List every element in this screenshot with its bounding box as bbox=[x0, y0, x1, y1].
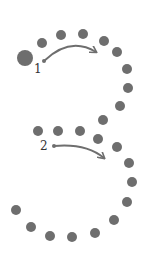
stroke-2-dot bbox=[26, 222, 36, 232]
digit-three-stroke-diagram: 12 bbox=[0, 0, 151, 253]
stroke-2-dot bbox=[124, 158, 134, 168]
stroke-1-dot bbox=[37, 38, 47, 48]
curved-arrow-icon bbox=[54, 146, 104, 159]
stroke-number-label: 2 bbox=[40, 139, 48, 153]
stroke-2-dot bbox=[93, 134, 103, 144]
stroke-2-dot bbox=[11, 205, 21, 215]
stroke-2-dot bbox=[33, 126, 43, 136]
curved-arrow-icon bbox=[44, 46, 96, 61]
stroke-2-dot bbox=[122, 197, 132, 207]
stroke-2-dot bbox=[45, 231, 55, 241]
stroke-1-dot bbox=[123, 83, 133, 93]
start-dot bbox=[17, 50, 33, 66]
stroke-2-dot bbox=[127, 177, 137, 187]
stroke-2-dot bbox=[112, 142, 122, 152]
dots-layer bbox=[11, 29, 137, 242]
arrow-origin-dot bbox=[42, 59, 46, 63]
stroke-1-dot bbox=[122, 64, 132, 74]
stroke-2-dot bbox=[109, 215, 119, 225]
stroke-1-dot bbox=[56, 30, 66, 40]
stroke-1-dot bbox=[112, 47, 122, 57]
stroke-number-label: 1 bbox=[34, 62, 42, 76]
stroke-1-dot bbox=[99, 36, 109, 46]
stroke-2-dot bbox=[90, 228, 100, 238]
stroke-2-dot bbox=[75, 126, 85, 136]
stroke-2-dot bbox=[67, 232, 77, 242]
stroke-1-arrow-group: 1 bbox=[34, 46, 96, 76]
stroke-2-dot bbox=[53, 126, 63, 136]
stroke-1-dot bbox=[98, 115, 108, 125]
stroke-1-dot bbox=[78, 29, 88, 39]
arrow-origin-dot bbox=[52, 144, 56, 148]
stroke-1-dot bbox=[115, 101, 125, 111]
